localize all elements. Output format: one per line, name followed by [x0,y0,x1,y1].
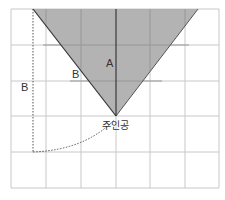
label-b-side: B [21,81,28,93]
label-a: A [106,57,114,69]
label-b-edge: B [72,68,79,80]
label-protagonist: 주인공 [102,120,129,131]
vision-cone-diagram: A B B 주인공 [0,0,225,200]
